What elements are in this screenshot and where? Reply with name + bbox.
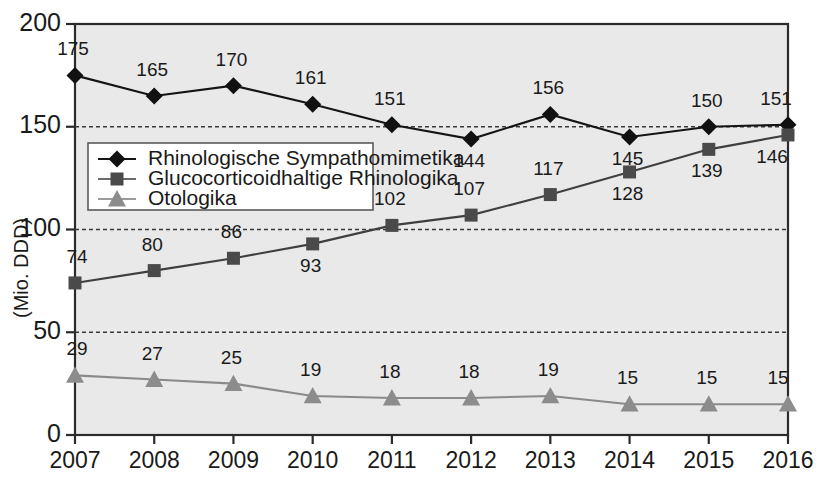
legend-label: Otologika: [148, 186, 237, 209]
x-tick-label-2007: 2007: [49, 447, 100, 473]
x-axis: 2007200820092010201120122013201420152016: [49, 435, 813, 473]
data-point-marker: [148, 264, 161, 277]
data-label: 27: [142, 343, 163, 364]
data-label: 18: [459, 361, 480, 382]
data-point-marker: [782, 128, 795, 141]
data-point-marker: [306, 237, 319, 250]
data-label: 117: [533, 158, 563, 179]
x-tick-label-2014: 2014: [604, 447, 655, 473]
data-point-marker: [465, 209, 478, 222]
data-point-marker: [385, 219, 398, 232]
x-tick-label-2013: 2013: [525, 447, 576, 473]
data-point-marker: [623, 165, 636, 178]
data-label: 102: [374, 188, 406, 209]
line-chart: 050100150200 200720082009201020112012201…: [0, 0, 820, 487]
data-label: 151: [374, 88, 406, 109]
data-label: 74: [66, 246, 88, 267]
data-label: 175: [57, 38, 89, 59]
data-label: 146: [756, 146, 788, 167]
x-tick-label-2016: 2016: [762, 447, 813, 473]
data-label: 15: [617, 367, 638, 388]
x-tick-label-2012: 2012: [446, 447, 497, 473]
y-tick-label-150: 150: [19, 110, 61, 138]
data-label: 80: [142, 234, 163, 255]
chart-canvas: 050100150200 200720082009201020112012201…: [0, 0, 820, 487]
y-tick-label-0: 0: [47, 419, 61, 447]
data-label: 150: [691, 90, 723, 111]
data-point-marker: [544, 188, 557, 201]
y-tick-label-50: 50: [33, 316, 61, 344]
data-point-marker: [69, 276, 82, 289]
x-tick-label-2015: 2015: [683, 447, 734, 473]
data-label: 18: [379, 361, 400, 382]
data-label: 161: [295, 67, 327, 88]
data-label: 15: [696, 367, 717, 388]
x-tick-label-2011: 2011: [367, 447, 416, 473]
x-tick-label-2009: 2009: [208, 447, 259, 473]
data-label: 93: [300, 255, 321, 276]
data-label: 128: [612, 183, 644, 204]
data-label: 156: [532, 77, 564, 98]
data-label: 15: [767, 367, 788, 388]
x-tick-label-2008: 2008: [129, 447, 180, 473]
square-marker-icon: [111, 173, 124, 186]
data-label: 19: [538, 359, 559, 380]
x-tick-label-2010: 2010: [287, 447, 338, 473]
data-label: 165: [136, 59, 168, 80]
data-label: 151: [760, 88, 792, 109]
data-label: 19: [300, 359, 321, 380]
y-tick-label-200: 200: [19, 8, 61, 36]
data-label: 29: [66, 338, 87, 359]
data-label: 86: [221, 221, 242, 242]
y-axis-title: (Mio. DDD): [10, 218, 32, 318]
data-label: 25: [221, 347, 242, 368]
data-point-marker: [227, 252, 240, 265]
data-label: 139: [691, 160, 723, 181]
data-point-marker: [702, 143, 715, 156]
data-label: 170: [216, 49, 248, 70]
